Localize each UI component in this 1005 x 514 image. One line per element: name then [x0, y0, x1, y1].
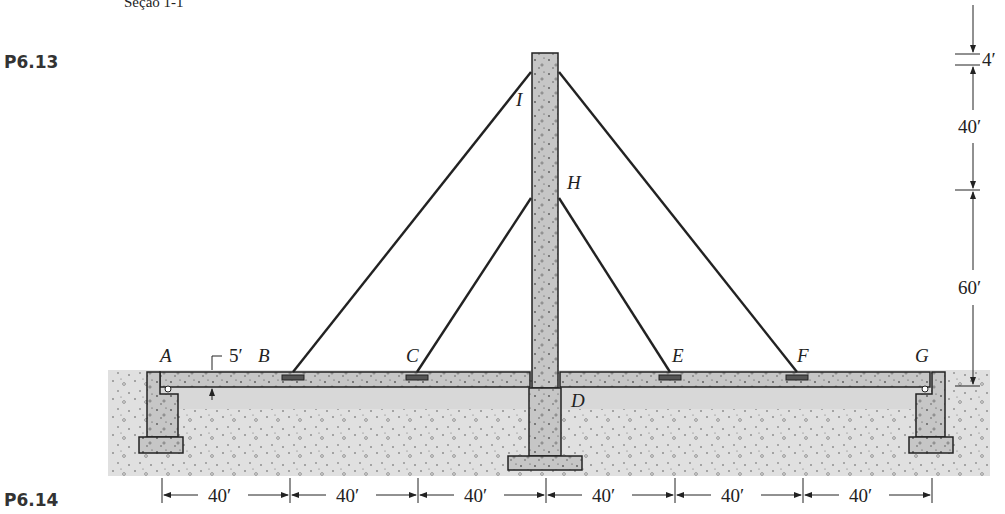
footing-right: [909, 437, 953, 453]
vertical-dim-4ft: 4′: [982, 49, 996, 70]
node-label-e: E: [671, 345, 684, 366]
vertical-dim-40ft: 40′: [958, 116, 981, 137]
horizontal-dim-1: 40′: [208, 485, 231, 506]
roller-support-left: [165, 386, 171, 392]
deck-thickness-label: 5′: [229, 345, 243, 366]
node-label-c: C: [406, 345, 419, 366]
footing-left: [139, 437, 183, 453]
pylon-pier: [529, 388, 561, 456]
horizontal-dim-2: 40′: [336, 485, 359, 506]
horizontal-dim-3: 40′: [464, 485, 487, 506]
roller-support-right: [922, 386, 928, 392]
horizontal-dimensions: [162, 478, 932, 503]
horizontal-dim-6: 40′: [849, 485, 872, 506]
bridge-deck-left: [160, 372, 530, 387]
vertical-dim-60ft: 60′: [958, 277, 981, 298]
node-label-f: F: [796, 345, 809, 366]
pylon-tower: [532, 53, 558, 388]
node-label-d: D: [570, 390, 585, 411]
horizontal-dim-4: 40′: [592, 485, 615, 506]
node-label-i: I: [515, 89, 524, 110]
node-label-b: B: [258, 345, 270, 366]
bridge-deck-right: [560, 372, 930, 387]
node-label-a: A: [158, 345, 172, 366]
vertical-dimensions: [955, 5, 980, 386]
horizontal-dim-5: 40′: [721, 485, 744, 506]
node-label-g: G: [915, 345, 929, 366]
node-label-h: H: [566, 172, 582, 193]
cable-stayed-bridge-diagram: A B C D E F G H I 5′ 4′ 40′ 60′: [0, 0, 1005, 514]
pylon-footing: [508, 456, 582, 470]
